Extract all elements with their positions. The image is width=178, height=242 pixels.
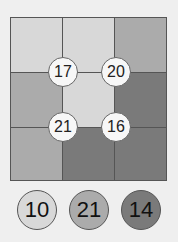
puzzle-grid [10, 17, 167, 181]
sum-clue: 21 [48, 112, 78, 142]
palette-color-dark[interactable]: 14 [121, 190, 161, 230]
palette-color-medium[interactable]: 21 [69, 190, 109, 230]
sum-clue: 16 [101, 112, 131, 142]
sum-clue: 17 [48, 57, 78, 87]
palette-color-light[interactable]: 10 [17, 190, 57, 230]
sum-clue: 20 [101, 57, 131, 87]
